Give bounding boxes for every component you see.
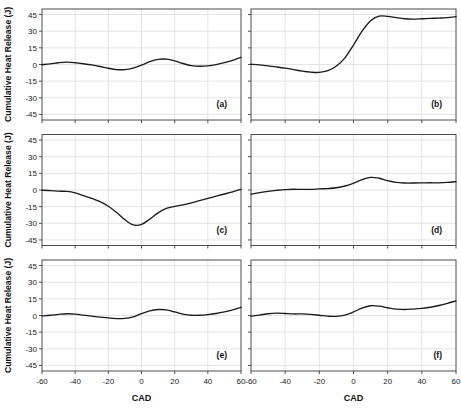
y-tick-label: -45 — [25, 236, 37, 245]
x-axis-title: CAD — [344, 393, 364, 403]
y-axis-title: Cumulative Heat Release (J) — [3, 7, 13, 122]
y-tick-label: 0 — [33, 61, 38, 70]
y-tick-label: -15 — [25, 203, 37, 212]
y-tick-label: -30 — [25, 345, 37, 354]
y-tick-label: 0 — [33, 186, 38, 195]
y-tick-label: 15 — [28, 295, 37, 304]
x-tick-label: -40 — [69, 377, 81, 386]
x-tick-label: -20 — [314, 377, 326, 386]
panel-frame — [251, 260, 456, 371]
panel-frame — [42, 260, 241, 371]
y-axis-title: Cumulative Heat Release (J) — [3, 132, 13, 247]
y-tick-label: 30 — [28, 278, 37, 287]
panel-f: -60-40-200204060(f)CAD — [245, 260, 461, 403]
x-tick-label: 0 — [139, 377, 144, 386]
x-tick-label: 20 — [383, 377, 392, 386]
x-tick-label: 0 — [351, 377, 356, 386]
multi-panel-line-chart: 4530150-15-30-45(a)Cumulative Heat Relea… — [0, 0, 461, 417]
y-tick-label: 0 — [33, 312, 38, 321]
x-tick-label: -60 — [245, 377, 257, 386]
panel-e: 4530150-15-30-45-60-40-200204060(e)Cumul… — [3, 258, 246, 403]
y-tick-label: 15 — [28, 169, 37, 178]
panel-label-f: (f) — [434, 350, 443, 360]
y-axis-title: Cumulative Heat Release (J) — [3, 258, 13, 373]
x-tick-label: 60 — [452, 377, 461, 386]
y-tick-label: 45 — [28, 136, 37, 145]
x-tick-label: -20 — [103, 377, 115, 386]
y-tick-label: -45 — [25, 361, 37, 370]
panel-label-a: (a) — [217, 99, 228, 109]
y-tick-label: 45 — [28, 262, 37, 271]
panel-frame — [251, 9, 456, 120]
y-tick-label: -15 — [25, 77, 37, 86]
panel-c: 4530150-15-30-45(c)Cumulative Heat Relea… — [3, 132, 241, 248]
x-tick-label: -40 — [279, 377, 291, 386]
panel-label-e: (e) — [217, 350, 228, 360]
panel-frame — [42, 135, 241, 246]
y-tick-label: 15 — [28, 44, 37, 53]
x-tick-label: -60 — [36, 377, 48, 386]
figure-cumulative-heat-release: 4530150-15-30-45(a)Cumulative Heat Relea… — [0, 0, 461, 417]
y-tick-label: -15 — [25, 328, 37, 337]
y-tick-label: -30 — [25, 94, 37, 103]
y-tick-label: 30 — [28, 153, 37, 162]
panel-a: 4530150-15-30-45(a)Cumulative Heat Relea… — [3, 7, 241, 123]
panel-d: (d) — [248, 135, 456, 249]
y-tick-label: -30 — [25, 219, 37, 228]
x-axis-title: CAD — [132, 393, 152, 403]
x-tick-label: 40 — [417, 377, 426, 386]
y-tick-label: 30 — [28, 27, 37, 36]
panel-b: (b) — [248, 9, 456, 123]
y-tick-label: -45 — [25, 110, 37, 119]
x-tick-label: 40 — [203, 377, 212, 386]
panel-label-b: (b) — [431, 99, 442, 109]
x-tick-label: 20 — [170, 377, 179, 386]
panel-label-c: (c) — [217, 225, 228, 235]
y-tick-label: 45 — [28, 11, 37, 20]
panel-label-d: (d) — [431, 225, 442, 235]
